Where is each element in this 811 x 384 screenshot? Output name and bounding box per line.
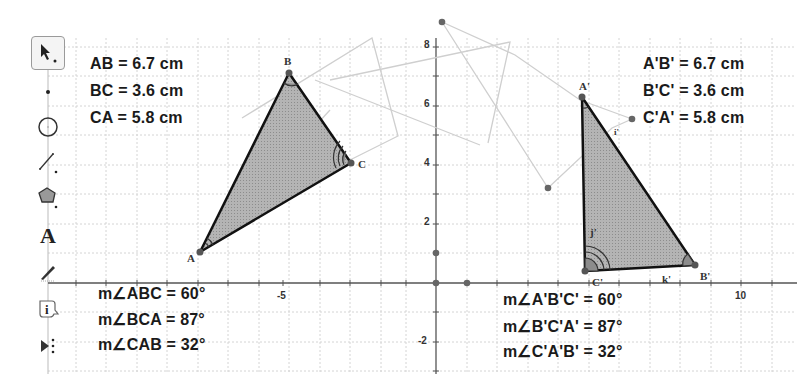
length-A1B1[interactable]: A'B' = 6.7 cm (643, 55, 744, 73)
pen-icon (35, 259, 61, 285)
svg-text:i: i (45, 302, 49, 317)
y-tick-8: 8 (424, 39, 430, 50)
label-B1: B' (700, 270, 710, 282)
point-origin (433, 280, 440, 287)
move-tool[interactable] (31, 36, 65, 70)
more-tools-icon (35, 333, 61, 359)
angle-C1A1B1[interactable]: m∠C'A'B' = 32° (503, 342, 623, 361)
x-tick-10: 10 (735, 290, 746, 301)
toolbar: A i (28, 36, 72, 384)
polygon-tool[interactable] (32, 182, 64, 214)
label-A1: A' (579, 80, 590, 92)
length-C1A1[interactable]: C'A' = 5.8 cm (643, 109, 744, 127)
circle-tool[interactable] (32, 111, 64, 143)
point-right (629, 116, 636, 123)
y-tick-neg2: -2 (418, 335, 427, 346)
label-C1: C' (592, 276, 603, 288)
line-tool[interactable] (32, 146, 64, 178)
length-B1C1[interactable]: B'C' = 3.6 cm (643, 82, 744, 100)
angle-ABC[interactable]: m∠ABC = 60° (98, 284, 206, 303)
angle-B1C1A1[interactable]: m∠B'C'A' = 87° (503, 317, 623, 336)
pentagon-icon (35, 185, 61, 211)
circle-icon (35, 114, 61, 140)
point-top (439, 19, 446, 26)
point-A1 (579, 94, 586, 101)
pen-tool[interactable] (32, 256, 64, 288)
line-icon (35, 149, 61, 175)
label-j1: j' (590, 226, 597, 238)
triangle-ABC[interactable] (200, 73, 351, 252)
angle-A1B1C1[interactable]: m∠A'B'C' = 60° (503, 290, 623, 309)
arrow-cursor-icon (35, 40, 61, 66)
angle-CAB[interactable]: m∠CAB = 32° (98, 335, 206, 354)
info-icon: i (35, 297, 61, 323)
label-A: A (187, 252, 195, 264)
point-x1 (464, 280, 471, 287)
text-tool[interactable]: A (32, 220, 64, 252)
label-i1: i' (614, 127, 619, 137)
info-tool[interactable]: i (32, 294, 64, 326)
length-BC[interactable]: BC = 3.6 cm (90, 82, 183, 100)
length-AB[interactable]: AB = 6.7 cm (90, 55, 183, 73)
text-A-icon: A (40, 223, 56, 249)
point-tool[interactable] (32, 76, 64, 108)
point-C1 (582, 268, 589, 275)
x-tick-neg5: -5 (277, 290, 286, 301)
label-B: B (284, 55, 291, 67)
length-CA[interactable]: CA = 5.8 cm (90, 109, 183, 127)
point-B1 (692, 262, 699, 269)
y-tick-4: 4 (424, 157, 430, 168)
y-tick-6: 6 (424, 98, 430, 109)
point-A (197, 249, 204, 256)
point-y1 (433, 250, 440, 257)
point-B (286, 70, 293, 77)
angle-BCA[interactable]: m∠BCA = 87° (98, 310, 205, 329)
point-icon (35, 79, 61, 105)
point-C (348, 160, 355, 167)
label-k1: k' (662, 273, 671, 285)
point-mid (545, 185, 552, 192)
label-C: C (358, 158, 366, 170)
y-tick-2: 2 (424, 216, 430, 227)
more-tools[interactable] (32, 330, 64, 362)
